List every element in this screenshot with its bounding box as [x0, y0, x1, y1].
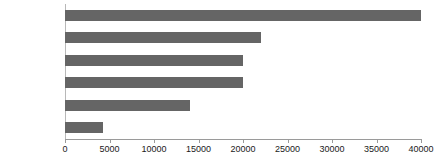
x-tick-mark: [243, 139, 244, 143]
bar-row: [65, 100, 421, 111]
bars-layer: [65, 4, 421, 139]
bar-row: [65, 55, 421, 66]
plot-area: [65, 4, 421, 139]
bar: [65, 100, 190, 111]
x-tick-label: 10000: [141, 145, 166, 154]
bar: [65, 10, 421, 21]
bar: [65, 55, 243, 66]
x-tick-label: 35000: [364, 145, 389, 154]
bar: [65, 122, 103, 133]
bar-row: [65, 122, 421, 133]
x-tick-label: 40000: [408, 145, 433, 154]
x-tick-label: 15000: [186, 145, 211, 154]
x-tick-mark: [65, 139, 66, 143]
x-tick-mark: [110, 139, 111, 143]
x-tick-mark: [199, 139, 200, 143]
bar-row: [65, 10, 421, 21]
x-tick-label: 30000: [319, 145, 344, 154]
x-tick-mark: [332, 139, 333, 143]
bar: [65, 32, 261, 43]
bar-row: [65, 32, 421, 43]
x-tick-mark: [154, 139, 155, 143]
x-tick-mark: [288, 139, 289, 143]
bar-row: [65, 77, 421, 88]
x-tick-label: 5000: [99, 145, 119, 154]
x-tick-label: 20000: [230, 145, 255, 154]
bar: [65, 77, 243, 88]
x-tick-mark: [377, 139, 378, 143]
x-tick-mark: [421, 139, 422, 143]
x-tick-label: 0: [62, 145, 67, 154]
bar-chart: イネマウスヒトカエルハエ大腫菌 050001000015000200002500…: [0, 0, 440, 165]
x-tick-label: 25000: [275, 145, 300, 154]
